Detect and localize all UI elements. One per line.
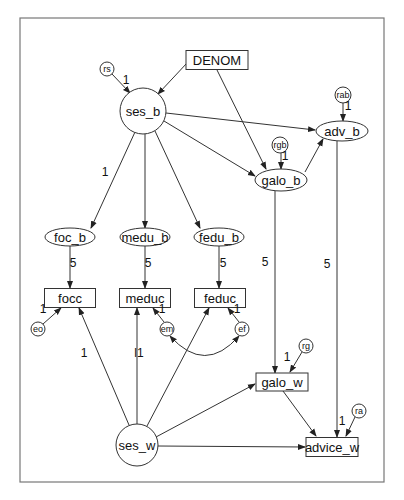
node-galo_w[interactable]: galo_w: [256, 373, 308, 391]
node-label: adv_b: [324, 124, 359, 139]
path-coefficient-ses_w_meduc: l1: [134, 346, 144, 360]
path-coefficient-foc_b_focc: 5: [70, 256, 77, 270]
node-label: galo_b: [261, 173, 300, 188]
edge-DENOM-to-ses_b: [158, 63, 187, 94]
node-label: feduc: [204, 291, 236, 306]
path-coefficient-ef_feduc: 1: [234, 302, 241, 316]
path-coefficient-galo_b_galo_w: 5: [262, 255, 269, 269]
path-coefficient-em_meduc: 1: [159, 302, 166, 316]
edge-galo_b-to-adv_b: [305, 139, 323, 172]
edge-ses_b-to-adv_b: [166, 113, 315, 130]
edge-ses_w-to-focc: [79, 308, 129, 425]
edge-galo_w-to-advice_w: [283, 391, 316, 436]
nodes-layer: DENOMses_badv_bgalo_bfoc_bmedu_bfedu_bfo…: [45, 51, 369, 467]
node-fedu_b[interactable]: fedu_b: [194, 228, 244, 246]
node-DENOM[interactable]: DENOM: [186, 51, 248, 70]
node-foc_b[interactable]: foc_b: [45, 228, 95, 246]
path-coefficient-rs_ses_b: 1: [123, 73, 130, 87]
node-galo_b[interactable]: galo_b: [255, 169, 307, 191]
error-term-rg[interactable]: rg: [299, 339, 313, 353]
error-term-label: rg: [302, 341, 310, 351]
node-label: ses_b: [126, 104, 161, 119]
edge-ra-to-advice_w: [346, 417, 355, 436]
node-medu_b[interactable]: medu_b: [120, 228, 170, 246]
path-coefficient-ses_w_focc: 1: [81, 346, 88, 360]
path-coefficient-fedu_b_feduc: 5: [220, 256, 227, 270]
path-coefficient-rab_adv_b: 1: [345, 99, 352, 113]
edge-ses_b-to-foc_b: [91, 132, 135, 228]
edge-ses_w-to-galo_w: [156, 384, 255, 437]
error-term-label: ra: [355, 406, 363, 416]
error-term-label: ef: [238, 324, 246, 334]
error-term-em[interactable]: em: [160, 322, 174, 336]
path-coefficient-eo_focc: 1: [40, 302, 47, 316]
covariance-layer: [170, 336, 239, 356]
node-label: galo_w: [261, 375, 303, 390]
node-advice_w[interactable]: advice_w: [305, 438, 360, 457]
node-label: fedu_b: [199, 230, 239, 245]
node-ses_w[interactable]: ses_w: [116, 424, 158, 466]
node-label: advice_w: [305, 440, 360, 455]
node-ses_b[interactable]: ses_b: [120, 88, 166, 134]
node-adv_b[interactable]: adv_b: [316, 121, 368, 141]
node-label: medu_b: [122, 230, 169, 245]
error-term-label: eo: [33, 324, 43, 334]
error-term-label: em: [161, 324, 174, 334]
path-coefficient-rg_galo_w: 1: [284, 350, 291, 364]
node-focc[interactable]: focc: [45, 289, 96, 308]
error-term-ef[interactable]: ef: [235, 322, 249, 336]
path-coefficient-rgb_galo_b: 1: [282, 149, 289, 163]
edge-ses_b-to-galo_b: [164, 121, 255, 176]
edge-ses_w-to-feduc: [147, 308, 209, 426]
path-diagram: DENOMses_badv_bgalo_bfoc_bmedu_bfedu_bfo…: [0, 0, 404, 500]
path-coefficient-ses_b_foc_b: 1: [102, 165, 109, 179]
covariance-em-ef: [170, 336, 239, 356]
error-term-ra[interactable]: ra: [352, 404, 366, 418]
path-coefficient-medu_b_meduc: 5: [145, 256, 152, 270]
path-coefficient-adv_b_advice_w: 5: [324, 257, 331, 271]
error-term-label: rs: [103, 64, 111, 74]
path-coefficient-ra_advice_w: 1: [339, 414, 346, 428]
node-label: focc: [58, 291, 82, 306]
error-term-eo[interactable]: eo: [31, 322, 45, 336]
node-label: DENOM: [193, 53, 241, 68]
edge-ses_w-to-advice_w: [158, 446, 305, 447]
node-label: foc_b: [54, 230, 86, 245]
error-term-rs[interactable]: rs: [100, 62, 114, 76]
node-label: ses_w: [119, 438, 156, 453]
edge-rg-to-galo_w: [290, 352, 302, 372]
edge-ses_b-to-fedu_b: [155, 131, 200, 228]
